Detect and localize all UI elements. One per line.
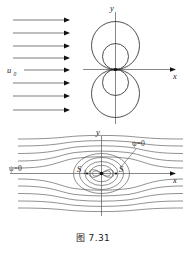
figure-container: u 0 y x y x xyxy=(0,0,186,255)
upper-panel-diagram: u 0 y x xyxy=(0,0,186,130)
flow-arrow xyxy=(13,93,70,98)
stagnation-point-s1-subscript: 1 xyxy=(83,169,86,175)
flow-arrow xyxy=(24,67,70,72)
upper-y-axis-label: y xyxy=(109,3,114,13)
lower-panel-diagram: y x xyxy=(0,128,186,233)
upper-flow-speed-label: u xyxy=(7,65,11,75)
psi-zero-label-left: ψ=0 xyxy=(9,164,22,173)
upper-origin-point xyxy=(113,68,118,71)
lower-origin-point xyxy=(100,172,104,176)
streamlines-upper xyxy=(18,135,183,168)
streamlines-lower xyxy=(18,179,183,212)
psi-zero-label-right: ψ=0 xyxy=(132,139,145,148)
flow-arrow xyxy=(13,43,70,48)
flow-arrow xyxy=(13,55,70,60)
flow-arrow xyxy=(13,80,70,85)
uniform-flow-arrows xyxy=(13,17,70,112)
upper-x-axis-label: x xyxy=(172,71,177,81)
stagnation-point-s1-label: S xyxy=(77,164,82,174)
stagnation-point-s2-marker xyxy=(115,172,117,174)
lower-axes xyxy=(10,136,176,216)
lower-x-axis-label: x xyxy=(172,175,177,185)
flow-arrow xyxy=(13,17,70,22)
stagnation-point-s1-marker xyxy=(86,172,88,174)
flow-arrow xyxy=(13,30,70,35)
upper-flow-speed-subscript: 0 xyxy=(14,71,17,77)
upper-axes xyxy=(83,12,176,124)
flow-arrow xyxy=(13,107,70,112)
figure-caption: 图 7.31 xyxy=(0,231,186,244)
